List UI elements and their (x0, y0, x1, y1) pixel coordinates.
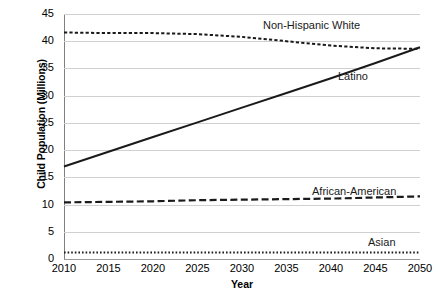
y-tick-label: 25 (14, 117, 54, 128)
gridline (64, 259, 420, 260)
y-tick-label: 35 (14, 62, 54, 73)
x-tick-label: 2045 (353, 263, 399, 274)
series-label-african-american: African-American (312, 186, 396, 197)
x-tick-label: 2015 (86, 263, 132, 274)
series-layer (64, 14, 420, 259)
x-tick-label: 2050 (397, 263, 437, 274)
plot-area: 051015202530354045 (64, 14, 420, 258)
y-tick-label: 45 (14, 8, 54, 19)
y-tick-label: 5 (14, 226, 54, 237)
x-tick-label: 2030 (219, 263, 265, 274)
y-tick-label: 15 (14, 171, 54, 182)
y-tick-label: 30 (14, 90, 54, 101)
x-tick-label: 2025 (175, 263, 221, 274)
series-label-non-hispanic-white: Non-Hispanic White (263, 20, 360, 31)
x-tick-label: 2035 (264, 263, 310, 274)
series-label-asian: Asian (368, 237, 396, 248)
y-tick-label: 40 (14, 35, 54, 46)
series-line (64, 47, 420, 166)
series-line (64, 196, 420, 202)
x-axis-title: Year (64, 278, 420, 290)
x-tick-label: 2010 (41, 263, 87, 274)
x-tick-label: 2040 (308, 263, 354, 274)
x-tick-label: 2020 (130, 263, 176, 274)
y-tick-label: 20 (14, 144, 54, 155)
series-line (64, 33, 420, 49)
series-label-latino: Latino (338, 71, 368, 82)
y-tick-label: 10 (14, 199, 54, 210)
